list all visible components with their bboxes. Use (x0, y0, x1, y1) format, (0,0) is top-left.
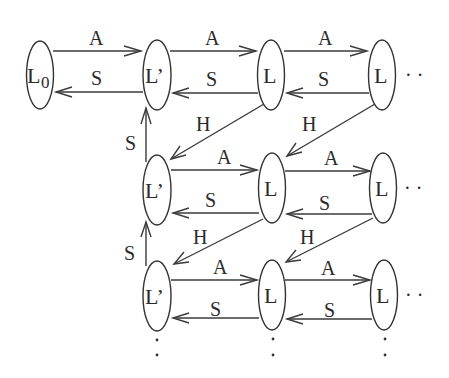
node-label: L (264, 283, 277, 308)
ellipsis-right-r2: · · (405, 284, 423, 306)
ellipsis-right-r0: · · (405, 64, 423, 86)
node-label: L (27, 63, 40, 88)
node-Lprime-r0: L’ (143, 40, 171, 110)
edge-label: S (125, 132, 136, 154)
edge-label: S (206, 68, 217, 90)
node-label: L (375, 176, 388, 201)
node-L-r1c3: L (370, 153, 397, 223)
edge-label: S (210, 298, 221, 320)
edge-label: A (89, 27, 104, 49)
state-diagram: L 0 L’ L L · · A S A S A (0, 0, 449, 378)
edge-S-r2-c2-c1: S (173, 298, 259, 323)
edge-A-r2-c2-c3: A (285, 257, 370, 285)
node-label: L (376, 283, 389, 308)
edge-S-r2c1-r1c1: S (124, 222, 151, 266)
node-L0: L 0 (27, 41, 54, 109)
edge-label: H (302, 113, 316, 135)
node-Lprime-r1: L’ (143, 155, 171, 225)
edge-label: A (321, 257, 336, 279)
edge-label: S (205, 189, 216, 211)
edge-S-r1-c2-c1: S (173, 189, 259, 218)
edge-label: S (324, 299, 335, 321)
edge-S-r0-c2-c1: S (173, 68, 258, 98)
edge-label: A (217, 146, 232, 168)
edge-label: H (300, 226, 314, 248)
node-label: L (263, 63, 276, 88)
node-Lprime-r2: L’ (143, 261, 171, 331)
node-L-r0c3: L (369, 40, 396, 110)
edge-A-r0-c2-c3: A (284, 27, 367, 56)
edge-S-r1c1-r0c1: S (125, 108, 151, 162)
ellipsis-down-c2 (272, 338, 275, 357)
edge-H-r1c3-r2c2: H (286, 218, 373, 262)
node-label: L (374, 63, 387, 88)
edge-label: A (318, 27, 333, 49)
ellipsis-down-c1 (156, 339, 159, 357)
edge-S-Lprime-L0: S (56, 67, 143, 97)
edge-A-r1-c1-c2: A (171, 146, 257, 175)
edge-S-r1-c3-c2: S (287, 192, 372, 219)
node-subscript: 0 (41, 73, 50, 92)
node-L-r2c2: L (259, 260, 286, 330)
ellipsis-down-c3 (384, 338, 387, 357)
node-L-r1c2: L (259, 153, 286, 223)
edge-A-r2-c1-c2: A (171, 256, 257, 285)
node-label: L’ (145, 63, 164, 88)
edge-label: S (91, 67, 102, 89)
node-label: L’ (145, 284, 164, 309)
edge-label: S (319, 192, 330, 214)
node-L-r2c3: L (371, 260, 398, 330)
edge-label: S (318, 68, 329, 90)
edge-label: H (193, 226, 207, 248)
node-label: L’ (145, 178, 164, 203)
edge-label: A (324, 147, 339, 169)
edge-A-L0-Lprime: A (53, 27, 141, 56)
node-label: L (264, 176, 277, 201)
edge-label: S (124, 242, 135, 264)
ellipsis-right-r1: · · (404, 177, 422, 199)
edge-S-r2-c3-c2: S (287, 299, 372, 324)
node-L-r0c2: L (258, 40, 285, 110)
edge-A-r1-c2-c3: A (285, 147, 370, 176)
edge-label: A (205, 27, 220, 49)
edge-label: A (213, 256, 228, 278)
edge-A-r0-c1-c2: A (170, 27, 256, 56)
edge-label: H (196, 113, 210, 135)
edge-S-r0-c3-c2: S (287, 68, 369, 98)
